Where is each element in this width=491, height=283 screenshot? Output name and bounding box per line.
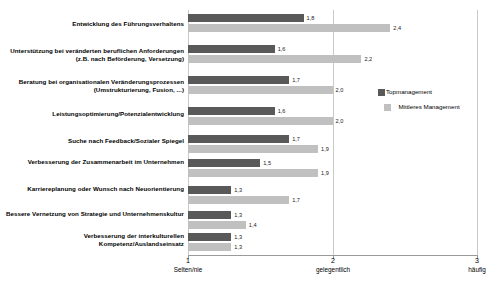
category-label: Verbesserung der interkulturellen Kompet…	[4, 232, 184, 248]
bar-value-topmanagement: 1,3	[234, 211, 242, 219]
bar-mittleres-management	[188, 169, 318, 177]
category-label: Entwicklung des Führungsverhaltens	[4, 20, 184, 28]
legend-item-topmanagement: Topmanagement	[378, 88, 482, 96]
bar-value-topmanagement: 1,7	[292, 135, 300, 143]
bar-value-topmanagement: 1,3	[234, 233, 242, 241]
bar-value-topmanagement: 1,7	[292, 76, 300, 84]
category-label: Beratung bei organisationalen Veränderun…	[4, 78, 184, 94]
bar-value-topmanagement: 1,3	[234, 186, 242, 194]
legend-item-mittleres-management: Mittleres Management	[378, 103, 482, 111]
legend-label-mittleres-management: Mittleres Management	[398, 103, 460, 111]
bar-mittleres-management	[188, 117, 333, 125]
bar-mittleres-management	[188, 24, 390, 32]
legend-swatch-icon-topmanagement	[378, 89, 385, 96]
bar-topmanagement	[188, 211, 231, 219]
x-tick-number-3: 3	[437, 256, 491, 265]
x-tick-label-2: 2 gelegentlich	[293, 256, 373, 274]
bar-value-topmanagement: 1,8	[307, 14, 315, 22]
bar-mittleres-management	[188, 145, 318, 153]
category-label: Suche nach Feedback/Sozialer Spiegel	[4, 137, 184, 145]
bar-mittleres-management	[188, 243, 231, 251]
bar-topmanagement	[188, 45, 275, 53]
x-tick-number-1: 1	[148, 256, 228, 265]
legend-label-topmanagement: Topmanagement	[386, 88, 432, 96]
bar-value-mittleres-management: 2,4	[393, 24, 401, 32]
category-label: Verbesserung der Zusammenarbeit im Unter…	[4, 158, 184, 166]
bar-value-mittleres-management: 1,9	[321, 145, 329, 153]
bar-topmanagement	[188, 76, 289, 84]
chart-legend: Topmanagement Mittleres Management	[378, 88, 482, 118]
x-tick-label-3: 3 häufig	[437, 256, 491, 274]
bar-mittleres-management	[188, 86, 333, 94]
category-label: Unterstützung bei veränderten berufliche…	[4, 47, 184, 63]
bar-mittleres-management	[188, 221, 246, 229]
bar-value-mittleres-management: 2,0	[336, 86, 344, 94]
legend-swatch-icon-mittleres-management	[384, 104, 391, 111]
category-label: Leistungsoptimierung/Potenzialentwicklun…	[4, 110, 184, 118]
bar-topmanagement	[188, 159, 260, 167]
x-tick-caption-1: Selten/nie	[148, 265, 228, 274]
bar-value-topmanagement: 1,6	[278, 45, 286, 53]
x-tick-label-1: 1 Selten/nie	[148, 256, 228, 274]
bar-value-topmanagement: 1,5	[263, 159, 271, 167]
bar-value-topmanagement: 1,6	[278, 107, 286, 115]
bar-value-mittleres-management: 2,2	[364, 55, 372, 63]
bar-value-mittleres-management: 1,3	[234, 243, 242, 251]
bar-value-mittleres-management: 1,9	[321, 169, 329, 177]
bar-value-mittleres-management: 1,7	[292, 196, 300, 204]
x-tick-caption-3: häufig	[437, 265, 491, 274]
x-tick-number-2: 2	[293, 256, 373, 265]
bar-topmanagement	[188, 186, 231, 194]
bar-value-mittleres-management: 2,0	[336, 117, 344, 125]
bar-topmanagement	[188, 135, 289, 143]
bar-mittleres-management	[188, 55, 361, 63]
category-label: Karriereplanung oder Wunsch nach Neuorie…	[4, 185, 184, 193]
bar-topmanagement	[188, 14, 304, 22]
bar-value-mittleres-management: 1,4	[249, 221, 257, 229]
bar-topmanagement	[188, 107, 275, 115]
bar-topmanagement	[188, 233, 231, 241]
bar-mittleres-management	[188, 196, 289, 204]
x-tick-caption-2: gelegentlich	[293, 265, 373, 274]
category-label: Bessere Vernetzung von Strategie und Unt…	[4, 210, 184, 218]
